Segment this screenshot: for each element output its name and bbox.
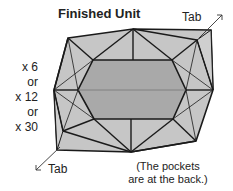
diagram-title: Finished Unit xyxy=(58,6,140,21)
tab-label-top: Tab xyxy=(182,10,201,24)
pockets-note: (The pockets are at the back.) xyxy=(118,160,218,186)
note-line-2: are at the back.) xyxy=(118,173,218,186)
multiplier-12: x 12 xyxy=(4,90,38,105)
multiplier-list: x 6 or x 12 or x 30 xyxy=(4,60,38,135)
multiplier-or: or xyxy=(4,105,38,120)
multiplier-30: x 30 xyxy=(4,120,38,135)
note-line-1: (The pockets xyxy=(118,160,218,173)
multiplier-or: or xyxy=(4,75,38,90)
multiplier-6: x 6 xyxy=(4,60,38,75)
tab-label-bottom: Tab xyxy=(48,162,67,176)
